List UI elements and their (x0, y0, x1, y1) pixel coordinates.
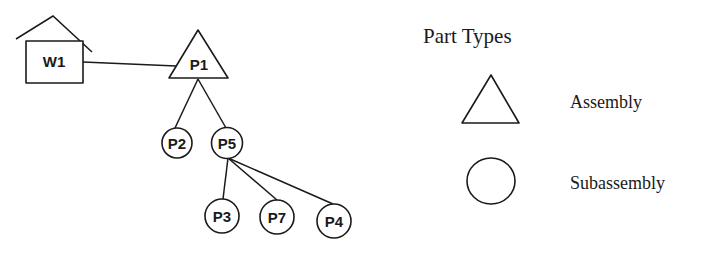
edge-w1-p1 (83, 62, 176, 66)
node-label-p5: P5 (218, 135, 236, 152)
legend-label-subassembly: Subassembly (570, 173, 665, 193)
triangle-icon (462, 75, 519, 123)
node-label-p3: P3 (213, 208, 231, 225)
legend-title: Part Types (423, 24, 512, 48)
node-p5: P5 (212, 128, 243, 159)
node-label-p1: P1 (190, 56, 208, 73)
node-w1: W1 (16, 16, 92, 83)
node-p7: P7 (260, 200, 294, 234)
node-label-p7: P7 (268, 209, 286, 226)
edge-p5-p7 (228, 158, 277, 200)
legend-item-subassembly: Subassembly (467, 158, 665, 204)
node-p3: P3 (205, 199, 239, 233)
circle-icon (467, 158, 515, 204)
legend: Part Types Assembly Subassembly (423, 24, 665, 204)
node-p2: P2 (162, 128, 192, 158)
node-p4: P4 (317, 204, 351, 238)
node-label-p4: P4 (325, 213, 344, 230)
part-tree-diagram: W1 P1 P2 P5 P3 P7 P4 Part Types Assembly (0, 0, 701, 259)
edge-p1-p5 (198, 79, 226, 128)
edge-p5-p3 (223, 158, 228, 199)
node-p1: P1 (169, 30, 228, 78)
edge-p5-p4 (228, 158, 333, 204)
legend-item-assembly: Assembly (462, 75, 642, 123)
edge-p1-p2 (175, 79, 198, 128)
node-label-p2: P2 (168, 135, 186, 152)
node-label-w1: W1 (43, 53, 66, 70)
legend-label-assembly: Assembly (570, 92, 642, 112)
edges (83, 62, 333, 204)
